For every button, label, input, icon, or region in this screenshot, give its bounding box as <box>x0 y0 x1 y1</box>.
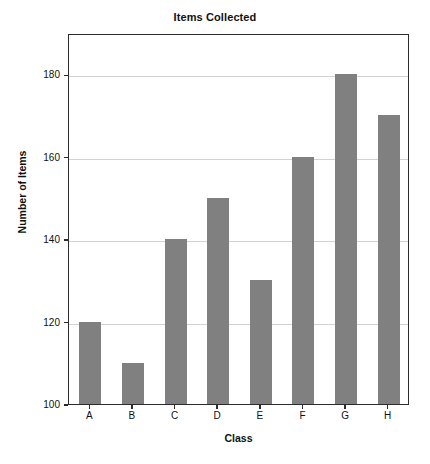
bar-C <box>165 239 187 404</box>
x-tick-label-A: A <box>74 410 104 421</box>
x-tick-mark-A <box>89 405 90 409</box>
bar-B <box>122 363 144 404</box>
bar-F <box>292 157 314 404</box>
y-tick-label-100: 100 <box>16 400 60 410</box>
x-tick-mark-F <box>302 405 303 409</box>
x-tick-mark-D <box>216 405 217 409</box>
x-tick-mark-G <box>344 405 345 409</box>
bar-G <box>335 74 357 404</box>
y-tick-label-180: 180 <box>16 70 60 80</box>
plot-area <box>68 34 409 405</box>
x-tick-label-G: G <box>330 410 360 421</box>
x-tick-mark-H <box>387 405 388 409</box>
x-tick-mark-E <box>259 405 260 409</box>
x-tick-label-C: C <box>160 410 190 421</box>
x-tick-label-F: F <box>287 410 317 421</box>
bar-D <box>207 198 229 404</box>
bar-A <box>79 322 101 404</box>
x-tick-mark-B <box>131 405 132 409</box>
x-axis-title: Class <box>68 432 409 444</box>
x-tick-label-E: E <box>245 410 275 421</box>
x-tick-label-B: B <box>117 410 147 421</box>
bar-chart-figure: Items Collected 100120140160180ABCDEFGH … <box>0 0 430 464</box>
y-axis-title: Number of Items <box>16 132 28 252</box>
bar-H <box>378 115 400 404</box>
chart-title: Items Collected <box>0 11 430 23</box>
bar-E <box>250 280 272 404</box>
y-tick-label-120: 120 <box>16 318 60 328</box>
x-tick-mark-C <box>174 405 175 409</box>
x-tick-label-D: D <box>202 410 232 421</box>
x-tick-label-H: H <box>373 410 403 421</box>
bars-layer <box>69 35 408 404</box>
